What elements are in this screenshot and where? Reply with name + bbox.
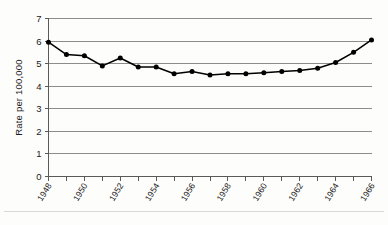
y-tick-label: 6 (36, 36, 41, 47)
data-point[interactable] (190, 69, 195, 74)
y-tick-label: 5 (36, 58, 41, 69)
data-point[interactable] (172, 71, 177, 76)
data-point[interactable] (64, 52, 69, 57)
x-tick-label: 1958 (214, 181, 233, 203)
x-tick-label: 1954 (143, 181, 162, 203)
y-tick-label: 1 (36, 148, 41, 159)
data-point[interactable] (118, 56, 123, 61)
x-tick-label: 1948 (35, 181, 54, 203)
y-tick-label: 7 (36, 13, 41, 24)
data-point[interactable] (297, 68, 302, 73)
data-point[interactable] (136, 65, 141, 70)
data-point[interactable] (279, 69, 284, 74)
x-tick-label: 1950 (71, 181, 90, 203)
x-tick-label: 1966 (358, 181, 377, 203)
data-point[interactable] (369, 37, 374, 42)
x-tick-label: 1952 (107, 181, 126, 203)
scan-artifact-line (4, 211, 384, 212)
data-point[interactable] (46, 40, 51, 45)
y-tick-label: 0 (36, 171, 41, 182)
y-tick-label: 2 (36, 126, 41, 137)
x-tick-label: 1962 (286, 181, 305, 203)
data-point[interactable] (351, 50, 356, 55)
data-point[interactable] (243, 71, 248, 76)
x-tick-label: 1964 (322, 181, 341, 203)
x-tick-label: 1956 (179, 181, 198, 203)
data-point[interactable] (100, 63, 105, 68)
data-point[interactable] (82, 53, 87, 58)
data-line-rate (49, 40, 372, 75)
y-axis-title: Rate per 100,000 (13, 59, 24, 136)
line-chart: 01234567Rate per 100,0001948195019521954… (0, 0, 388, 225)
data-point[interactable] (315, 66, 320, 71)
y-tick-label: 4 (36, 81, 41, 92)
data-point[interactable] (261, 70, 266, 75)
data-point[interactable] (154, 65, 159, 70)
y-tick-label: 3 (36, 103, 41, 114)
data-point[interactable] (333, 60, 338, 65)
data-point[interactable] (225, 71, 230, 76)
chart-container: 01234567Rate per 100,0001948195019521954… (0, 0, 388, 225)
x-tick-label: 1960 (250, 181, 269, 203)
data-point[interactable] (208, 72, 213, 77)
